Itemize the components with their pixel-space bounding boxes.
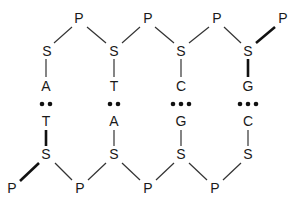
hydrogen-bond-triple [238,102,259,107]
sugar-label: S [243,146,252,162]
hydrogen-bond-double [108,102,121,107]
sugar-label: S [176,146,185,162]
top-strand-labels: P P P P S S S S A T C G [41,10,287,94]
phosphate-label: P [212,10,221,26]
phosphate-label: P [210,180,219,196]
base-label: T [42,113,51,129]
hydrogen-bond-double [40,102,53,107]
phosphate-label: P [7,180,16,196]
phosphate-label: P [143,10,152,26]
phosphate-label: P [143,180,152,196]
base-label: C [176,78,186,94]
phosphate-label: P [278,10,287,26]
sugar-label: S [109,43,118,59]
phosphate-label: P [74,10,83,26]
phosphate-label: P [75,180,84,196]
sugar-label: S [243,43,252,59]
base-label: A [109,113,119,129]
dna-ladder-diagram: P P P P S S S S A T C G T A G C S S S S … [0,0,296,203]
top-backbone-bonds [54,27,275,43]
sugar-label: S [41,146,50,162]
base-label: T [110,78,119,94]
base-label: A [41,78,51,94]
hydrogen-bonds [40,102,259,107]
sugar-label: S [42,43,51,59]
base-label: G [176,113,187,129]
base-label: G [243,78,254,94]
sugar-label: S [109,146,118,162]
bottom-backbone-bonds [20,163,241,181]
hydrogen-bond-triple [171,102,192,107]
base-label: C [243,113,253,129]
sugar-label: S [176,43,185,59]
bottom-strand-labels: T A G C S S S S P P P P [7,113,253,196]
top-sugar-base-bonds [46,59,248,77]
bottom-sugar-base-bonds [46,130,248,146]
